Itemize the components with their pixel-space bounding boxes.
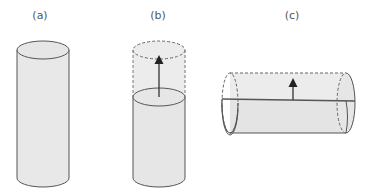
cylinder-a <box>17 41 69 187</box>
cylinder-b <box>133 41 185 187</box>
cylinder-c <box>222 73 355 135</box>
cylinder-diagram <box>0 0 370 195</box>
